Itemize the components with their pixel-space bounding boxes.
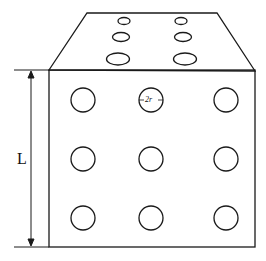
top-hole [118,18,130,25]
front-hole [214,147,238,171]
block-diagram [0,0,266,261]
arrow-down-icon [28,239,34,246]
top-hole [175,18,187,25]
front-hole [71,206,95,230]
front-hole [71,88,95,112]
diameter-label: 2r [145,95,152,104]
top-hole [175,33,192,42]
length-label: L [17,150,27,168]
top-hole [174,53,197,65]
front-hole [71,147,95,171]
front-hole [139,147,163,171]
top-hole [107,53,130,65]
front-hole [214,88,238,112]
front-hole [214,206,238,230]
front-hole [139,206,163,230]
arrow-up-icon [28,71,34,78]
top-hole [113,33,130,42]
top-face [49,13,255,71]
